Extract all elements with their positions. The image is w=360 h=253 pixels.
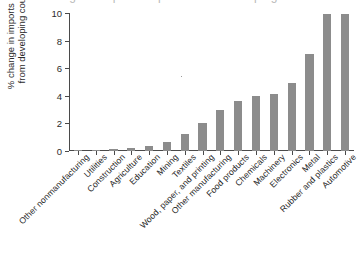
x-axis-labels: Other nonmanufacturingUtilitiesConstruct… xyxy=(69,152,360,253)
chart-title-cropped: % change in imports of parts from develo… xyxy=(0,0,360,7)
y-tick xyxy=(65,96,69,97)
y-tick-label: 6 xyxy=(57,63,62,74)
chart-title-text: % change in imports of parts from develo… xyxy=(28,0,278,3)
y-tick-label: 8 xyxy=(57,35,62,46)
bar xyxy=(305,54,313,151)
bar xyxy=(198,123,206,151)
y-axis-title: % change in imports of parts from develo… xyxy=(5,0,27,99)
y-tick-label: 2 xyxy=(57,118,62,129)
bar xyxy=(145,146,153,151)
x-axis-label: Other nonmanufacturing xyxy=(17,152,91,226)
y-tick-label: 10 xyxy=(51,8,62,19)
bar xyxy=(270,94,278,151)
bar xyxy=(92,150,100,151)
y-axis-line xyxy=(69,13,70,151)
bar xyxy=(252,96,260,151)
plot-area: 0246810 xyxy=(69,13,354,151)
bar xyxy=(74,150,82,151)
bar xyxy=(163,142,171,151)
y-tick-label: 0 xyxy=(57,146,62,157)
bar xyxy=(234,101,242,151)
bar xyxy=(181,134,189,151)
bar xyxy=(288,83,296,151)
bar xyxy=(216,110,224,151)
y-tick xyxy=(65,123,69,124)
bar xyxy=(323,14,331,151)
bar xyxy=(341,14,349,151)
y-tick-label: 4 xyxy=(57,90,62,101)
bar xyxy=(109,149,117,151)
y-tick xyxy=(65,41,69,42)
bar-chart: % change in imports of parts from develo… xyxy=(0,0,360,253)
bar xyxy=(127,148,135,151)
scan-speck xyxy=(181,76,182,77)
y-tick xyxy=(65,13,69,14)
y-tick xyxy=(65,68,69,69)
